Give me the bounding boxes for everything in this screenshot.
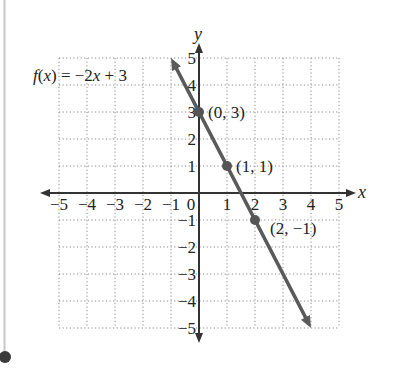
y-tick-label: −3 [178,265,196,284]
x-tick-label: 1 [223,195,232,214]
y-axis-up-arrow-icon [195,43,203,53]
point-label: (1, 1) [236,157,273,176]
x-axis-right-arrow-icon [346,189,356,197]
x-tick-label: 3 [279,195,288,214]
y-tick-label: −4 [178,292,197,311]
y-tick-label: −1 [178,211,196,230]
point-label: (2, −1) [270,219,316,238]
y-tick-label: 1 [188,157,197,176]
x-tick-label: 5 [335,195,344,214]
y-tick-label: 5 [188,49,197,68]
y-axis-label: y [192,24,202,44]
point-marker [222,161,232,171]
point-label: (0, 3) [208,103,245,122]
y-axis-down-arrow-icon [195,333,203,343]
point-marker [194,107,204,117]
x-tick-labels: −5−4−3−2−1012345 [50,195,343,214]
graph-figure: x y −5−4−3−2−1012345 54321−1−2−3−4−5 (0,… [0,0,393,369]
x-tick-label: 4 [307,195,316,214]
point-marker [250,215,260,225]
x-tick-label: −4 [78,195,97,214]
y-tick-label: −2 [178,238,196,257]
y-tick-label: 2 [188,130,197,149]
function-label: f(x) = −2x + 3 [33,66,127,85]
margin-dot [0,351,11,363]
x-tick-label: −5 [50,195,68,214]
x-tick-label: −2 [134,195,152,214]
x-axis-label: x [357,182,366,202]
x-axis-left-arrow-icon [40,189,50,197]
x-tick-label: −3 [106,195,124,214]
y-tick-label: −5 [178,319,196,338]
